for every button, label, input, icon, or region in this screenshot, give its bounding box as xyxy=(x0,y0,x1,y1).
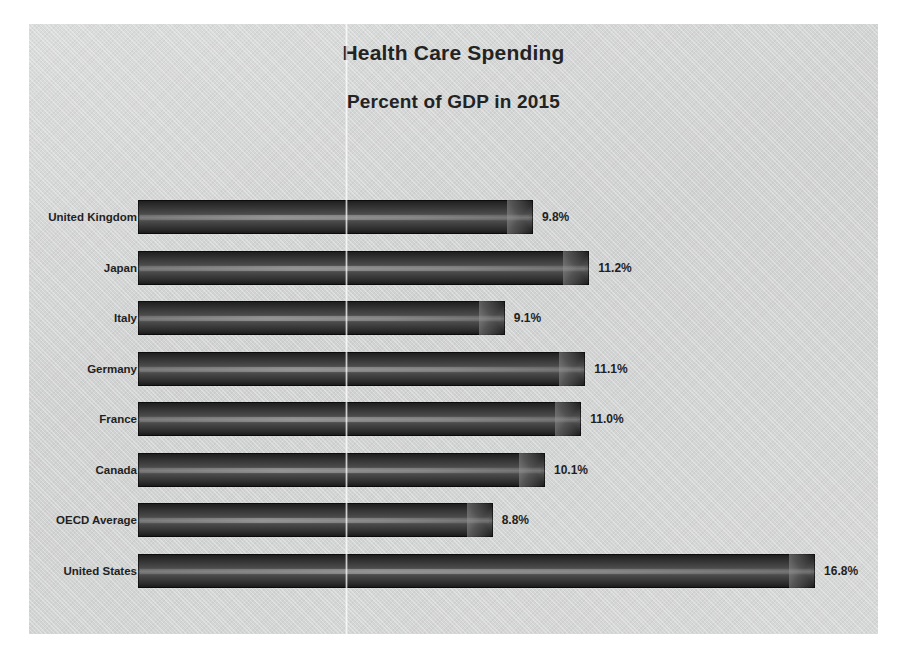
bar-value-label: 11.1% xyxy=(594,352,627,386)
bar-fill xyxy=(138,200,533,234)
category-label: France xyxy=(99,402,137,436)
bar-fill xyxy=(138,251,589,285)
bar xyxy=(138,200,533,234)
bar xyxy=(138,352,585,386)
bar xyxy=(138,503,493,537)
category-label: Canada xyxy=(95,453,137,487)
bar-row: United Kingdom9.8% xyxy=(29,200,878,234)
bar-value-label: 11.0% xyxy=(590,402,623,436)
bar xyxy=(138,301,505,335)
bar-fill xyxy=(138,352,585,386)
bar xyxy=(138,554,815,588)
bar xyxy=(138,453,545,487)
bar-row: Canada10.1% xyxy=(29,453,878,487)
category-label: United States xyxy=(64,554,138,588)
bar-fill xyxy=(138,301,505,335)
bar-row: Japan11.2% xyxy=(29,251,878,285)
category-label: Italy xyxy=(114,301,137,335)
category-label: United Kingdom xyxy=(48,200,137,234)
bar-series-container: United Kingdom9.8%Japan11.2%Italy9.1%Ger… xyxy=(29,24,878,634)
bar-value-label: 9.1% xyxy=(514,301,541,335)
bar-value-label: 11.2% xyxy=(598,251,631,285)
bar-row: France11.0% xyxy=(29,402,878,436)
bar-fill xyxy=(138,402,581,436)
bar-row: Germany11.1% xyxy=(29,352,878,386)
bar xyxy=(138,251,589,285)
chart-page: Health Care Spending Percent of GDP in 2… xyxy=(0,0,904,661)
bar-value-label: 9.8% xyxy=(542,200,569,234)
chart-plot-area: Health Care Spending Percent of GDP in 2… xyxy=(29,24,878,634)
bar-row: United States16.8% xyxy=(29,554,878,588)
bar-row: OECD Average8.8% xyxy=(29,503,878,537)
bar-fill xyxy=(138,453,545,487)
category-label: Japan xyxy=(104,251,137,285)
bar-value-label: 16.8% xyxy=(824,554,858,588)
category-label: Germany xyxy=(87,352,137,386)
bar xyxy=(138,402,581,436)
bar-fill xyxy=(138,554,815,588)
category-label: OECD Average xyxy=(56,503,137,537)
bar-value-label: 10.1% xyxy=(554,453,588,487)
bar-fill xyxy=(138,503,493,537)
bar-value-label: 8.8% xyxy=(502,503,529,537)
bar-row: Italy9.1% xyxy=(29,301,878,335)
